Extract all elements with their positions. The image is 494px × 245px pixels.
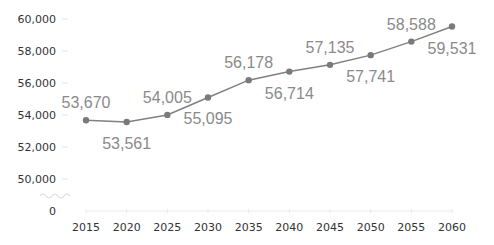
y-tick-label: 50,000 (18, 173, 57, 186)
x-tick-label: 2060 (438, 221, 466, 234)
data-label: 58,588 (387, 16, 436, 33)
x-tick-label: 2055 (397, 221, 425, 234)
y-tick-label: 54,000 (18, 109, 57, 122)
data-point (83, 117, 89, 123)
data-point (205, 94, 211, 100)
series-line (86, 27, 452, 123)
data-label: 53,561 (102, 135, 151, 152)
plot-area: 53,67053,56154,00555,09556,17856,71457,1… (62, 16, 477, 152)
data-label: 56,178 (224, 54, 273, 71)
x-tick-label: 2030 (194, 221, 222, 234)
x-tick-label: 2040 (275, 221, 303, 234)
data-point (327, 62, 333, 68)
x-tick-label: 2025 (153, 221, 181, 234)
y-tick-label: 52,000 (18, 141, 57, 154)
y-tick-label: 58,000 (18, 45, 57, 58)
y-axis: 050,00052,00054,00056,00058,00060,000 (18, 13, 71, 218)
data-point (367, 52, 373, 58)
y-tick-label: 0 (49, 205, 56, 218)
data-point (245, 77, 251, 83)
data-point (449, 23, 455, 29)
x-tick-label: 2020 (113, 221, 141, 234)
data-label: 53,670 (62, 94, 111, 111)
x-tick-label: 2035 (235, 221, 263, 234)
data-label: 57,135 (306, 39, 355, 56)
y-tick-label: 56,000 (18, 77, 57, 90)
axis-break-icon (40, 194, 70, 198)
data-point (123, 119, 129, 125)
line-chart: 050,00052,00054,00056,00058,00060,000 20… (0, 0, 494, 245)
x-axis: 2015202020252030203520402045205020552060 (72, 209, 466, 234)
data-point (286, 68, 292, 74)
data-point (164, 112, 170, 118)
x-tick-label: 2015 (72, 221, 100, 234)
y-tick-label: 60,000 (18, 13, 57, 26)
data-label: 57,741 (346, 68, 395, 85)
data-label: 56,714 (265, 85, 314, 102)
data-label: 54,005 (143, 89, 192, 106)
data-point (408, 38, 414, 44)
x-tick-label: 2045 (316, 221, 344, 234)
x-tick-label: 2050 (357, 221, 385, 234)
data-label: 59,531 (428, 40, 477, 57)
data-label: 55,095 (184, 110, 233, 127)
